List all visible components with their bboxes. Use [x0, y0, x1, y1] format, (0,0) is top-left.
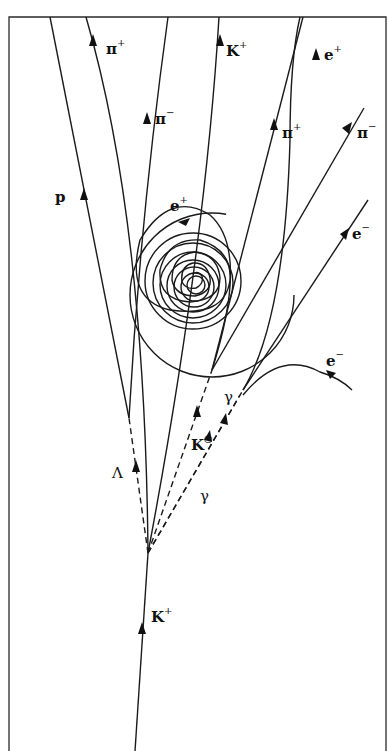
label-k-plus-top: K+	[226, 42, 247, 59]
bubble-chamber-diagram	[0, 0, 388, 751]
track-e-minus-upper	[243, 200, 368, 390]
label-lambda: Λ	[112, 466, 123, 481]
label-pi-plus-top: π+	[106, 40, 125, 57]
track-pi-minus-right	[212, 108, 364, 370]
spiral-ring	[160, 252, 226, 318]
label-pi-minus-right: π−	[357, 124, 376, 141]
arrow-icon	[143, 112, 151, 124]
label-e-minus-lower: e−	[326, 352, 344, 369]
track-pi-minus-left	[129, 17, 168, 418]
spiral-ring	[187, 276, 205, 294]
arrow-icon	[340, 228, 349, 240]
label-k-zero: K○	[191, 436, 213, 453]
arrow-icon	[132, 460, 140, 472]
label-pi-plus-right: π+	[282, 124, 301, 141]
track-k-plus-incoming	[135, 553, 148, 751]
track-k-zero	[148, 370, 212, 553]
label-e-minus-upper: e−	[352, 225, 370, 242]
arrow-icon	[80, 188, 88, 200]
chamber-frame	[9, 17, 386, 751]
track-e-plus-top	[243, 17, 300, 390]
label-gamma-upper: γ	[224, 390, 233, 405]
label-proton: p	[55, 190, 66, 205]
arrow-icon	[89, 34, 97, 46]
arrow-icon	[138, 622, 146, 634]
label-gamma-lower: γ	[200, 489, 209, 504]
track-proton	[50, 17, 129, 418]
arrow-icon	[312, 48, 320, 60]
label-pi-minus-left: π−	[155, 110, 174, 127]
label-e-plus-top: e+	[324, 46, 342, 63]
label-k-plus-incoming: K+	[151, 608, 172, 625]
arrow-icon	[220, 413, 228, 425]
label-e-plus-spiral: e+	[170, 197, 188, 214]
